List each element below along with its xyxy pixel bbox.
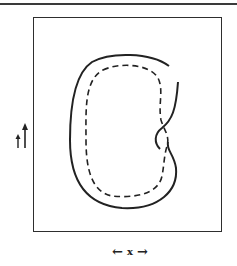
x-axis-label: ← x → [100, 244, 160, 258]
kidney-diagram [0, 0, 237, 266]
right-arrow-icon: → [137, 245, 148, 258]
inner-dashed-curve [86, 65, 168, 196]
left-arrow-icon: ← [112, 245, 123, 258]
y-axis-label [14, 120, 32, 150]
y-arrow-icon [14, 120, 32, 150]
x-label-text: x [127, 246, 133, 257]
